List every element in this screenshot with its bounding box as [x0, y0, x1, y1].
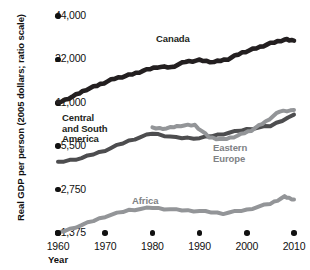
x-tick-label: 2000 — [227, 240, 267, 252]
x-tick-label: 1990 — [180, 240, 220, 252]
x-tick-dot — [102, 230, 108, 236]
series-label-eastern-europe: Eastern Europe — [213, 143, 247, 164]
series-label-central-and-south-america: Central and South America — [62, 113, 108, 145]
x-tick-dot — [150, 230, 156, 236]
series-label-africa: Africa — [132, 196, 158, 207]
series-label-canada: Canada — [156, 34, 190, 45]
plot-area — [0, 0, 310, 270]
x-tick-dot — [197, 230, 203, 236]
x-tick-dot — [244, 230, 250, 236]
x-axis-title: Year — [48, 254, 68, 265]
x-tick-dot — [55, 230, 61, 236]
series-line-canada — [58, 39, 294, 102]
series-line-africa — [58, 196, 294, 232]
gdp-per-person-chart: Real GDP per person (2005 dollars; ratio… — [0, 0, 310, 270]
x-tick-label: 1970 — [85, 240, 125, 252]
x-tick-dot — [291, 230, 297, 236]
x-tick-label: 2010 — [274, 240, 310, 252]
x-tick-label: 1960 — [38, 240, 78, 252]
x-tick-label: 1980 — [132, 240, 172, 252]
